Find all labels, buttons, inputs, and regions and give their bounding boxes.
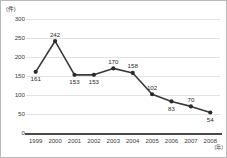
- gridline: [26, 114, 220, 115]
- y-axis-tick-label: 150: [3, 73, 25, 79]
- data-point-label: 102: [147, 85, 157, 91]
- y-axis-unit-label: (件): [6, 7, 16, 13]
- x-axis-tick-label: 2002: [87, 138, 100, 144]
- data-point-label: 153: [69, 79, 79, 85]
- data-point-label: 70: [187, 97, 194, 103]
- y-axis-tick-label: 0: [3, 130, 25, 136]
- x-axis-unit-label: (年): [215, 145, 223, 150]
- x-axis-tick-label: 2003: [107, 138, 120, 144]
- x-axis-tick-label: 2006: [165, 138, 178, 144]
- y-axis-tick-label: 200: [3, 54, 25, 60]
- y-axis-tick-label: 250: [3, 35, 25, 41]
- x-axis-tick-label: 2004: [126, 138, 139, 144]
- x-axis-baseline: [25, 133, 222, 135]
- x-axis-tick-label: 2007: [184, 138, 197, 144]
- y-axis-tick-label: 50: [3, 111, 25, 117]
- chart-container: (件) 050100150200250300 19992000200120022…: [0, 0, 227, 158]
- gridline: [26, 38, 220, 39]
- data-point-label: 153: [89, 79, 99, 85]
- x-axis-tick-label: 2001: [68, 138, 81, 144]
- data-point-label: 54: [207, 117, 214, 123]
- x-axis-tick-label: 2000: [48, 138, 61, 144]
- gridline: [26, 19, 220, 20]
- y-axis-tick-label: 100: [3, 92, 25, 98]
- x-axis-tick-label: 2005: [145, 138, 158, 144]
- gridline: [26, 57, 220, 58]
- x-axis: 1999200020012002200320042005200620072008: [26, 138, 220, 150]
- y-axis-tick-label: 300: [3, 16, 25, 22]
- data-point-label: 83: [168, 106, 175, 112]
- data-point-label: 170: [108, 59, 118, 65]
- data-point-label: 161: [31, 76, 41, 82]
- x-axis-tick-label: 1999: [29, 138, 42, 144]
- data-point-label: 242: [50, 32, 60, 38]
- data-point-label: 158: [128, 63, 138, 69]
- y-axis: 050100150200250300: [1, 19, 25, 133]
- gridline: [26, 76, 220, 77]
